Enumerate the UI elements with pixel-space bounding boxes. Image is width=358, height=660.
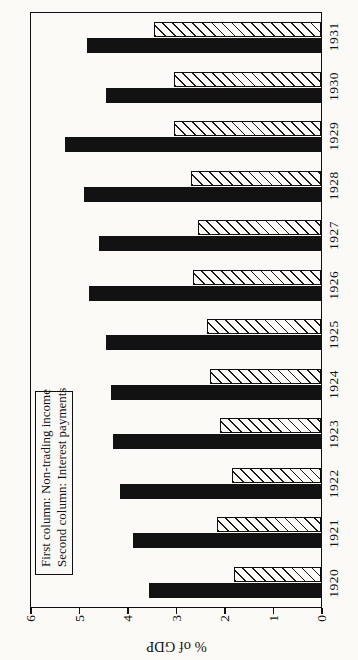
bar-group-1927 xyxy=(31,211,321,261)
bar-group-1931 xyxy=(31,13,321,63)
bar-interest-1927 xyxy=(198,220,321,235)
y-tick-mark-2 xyxy=(224,608,226,614)
bar-interest-1923 xyxy=(220,418,322,433)
bar-interest-1921 xyxy=(217,517,321,532)
y-axis-title-text: % of GDP xyxy=(146,638,206,655)
x-tick-label-1921: 1921 xyxy=(326,509,342,559)
y-tick-mark-0 xyxy=(321,608,323,614)
x-tick-label-1928: 1928 xyxy=(326,161,342,211)
bar-nontrading-1929 xyxy=(65,137,321,152)
legend-line-1: First column: Non-trading income xyxy=(38,396,54,567)
bar-interest-1929 xyxy=(174,121,321,136)
x-tick-label-1923: 1923 xyxy=(326,409,342,459)
x-tick-label-1924: 1924 xyxy=(326,360,342,410)
x-tick-label-1930: 1930 xyxy=(326,62,342,112)
bar-interest-1931 xyxy=(154,22,321,37)
bar-group-1922 xyxy=(31,459,321,509)
bar-group-1930 xyxy=(31,63,321,113)
y-tick-mark-4 xyxy=(127,608,129,614)
y-tick-mark-5 xyxy=(79,608,81,614)
bar-interest-1920 xyxy=(234,567,321,582)
bar-group-1925 xyxy=(31,310,321,360)
bar-nontrading-1920 xyxy=(149,583,321,598)
bar-interest-1924 xyxy=(210,369,321,384)
x-tick-label-1920: 1920 xyxy=(326,558,342,608)
y-tick-mark-3 xyxy=(176,608,178,614)
bar-group-1928 xyxy=(31,162,321,212)
bar-interest-1922 xyxy=(232,468,321,483)
y-tick-mark-1 xyxy=(273,608,275,614)
y-tick-mark-6 xyxy=(30,608,32,614)
bar-nontrading-1922 xyxy=(120,484,321,499)
bar-interest-1930 xyxy=(174,72,321,87)
bar-nontrading-1925 xyxy=(106,335,321,350)
bar-nontrading-1923 xyxy=(113,434,321,449)
bar-nontrading-1926 xyxy=(89,286,321,301)
bars-layer xyxy=(31,13,321,607)
x-tick-label-1931: 1931 xyxy=(326,12,342,62)
x-tick-label-1929: 1929 xyxy=(326,111,342,161)
bar-group-1929 xyxy=(31,112,321,162)
bar-group-1926 xyxy=(31,261,321,311)
bar-nontrading-1930 xyxy=(106,88,321,103)
bar-interest-1925 xyxy=(207,319,321,334)
rotated-bar-chart-page: First column: Non-trading income Second … xyxy=(0,0,358,660)
bar-group-1920 xyxy=(31,558,321,608)
bar-group-1924 xyxy=(31,360,321,410)
bar-nontrading-1921 xyxy=(133,533,322,548)
x-tick-label-1927: 1927 xyxy=(326,211,342,261)
legend-box: First column: Non-trading income Second … xyxy=(35,391,73,575)
x-tick-label-1922: 1922 xyxy=(326,459,342,509)
bar-nontrading-1924 xyxy=(111,385,321,400)
x-axis-labels: 1920192119221923192419251926192719281929… xyxy=(326,12,342,608)
plot-area: First column: Non-trading income Second … xyxy=(30,12,322,608)
bar-group-1921 xyxy=(31,508,321,558)
bar-interest-1926 xyxy=(193,270,321,285)
y-axis-title: % of GDP xyxy=(30,638,322,656)
x-tick-label-1925: 1925 xyxy=(326,310,342,360)
bar-nontrading-1928 xyxy=(84,187,321,202)
x-tick-label-1926: 1926 xyxy=(326,260,342,310)
bar-nontrading-1931 xyxy=(87,38,321,53)
bar-nontrading-1927 xyxy=(99,236,321,251)
legend-line-2: Second column: Interest payments xyxy=(54,396,70,567)
bar-interest-1928 xyxy=(191,171,322,186)
chart-canvas: First column: Non-trading income Second … xyxy=(0,0,358,660)
bar-group-1923 xyxy=(31,409,321,459)
